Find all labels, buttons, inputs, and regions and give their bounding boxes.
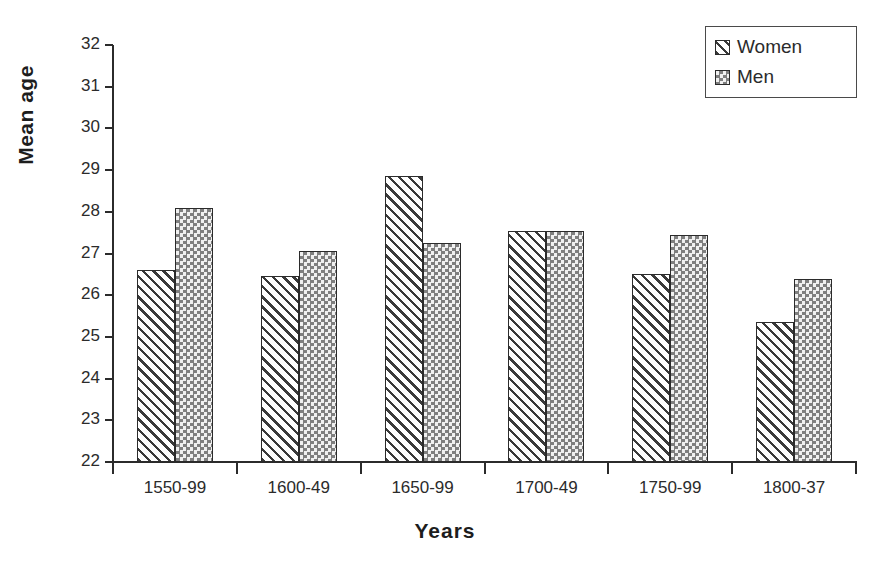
bar-men-1700-49 (546, 231, 584, 462)
bar-women-1600-49 (261, 276, 299, 462)
legend-label-men: Men (737, 66, 774, 88)
x-tick-label: 1700-49 (485, 478, 609, 498)
legend: Women Men (705, 26, 857, 98)
legend-swatch-women-icon (715, 40, 730, 55)
y-tick-label: 29 (48, 159, 100, 179)
bar-men-1550-99 (175, 208, 213, 462)
y-tick-label: 22 (48, 451, 100, 471)
y-tick-mark (105, 127, 113, 129)
y-tick-mark (105, 378, 113, 380)
bar-women-1550-99 (137, 270, 175, 462)
bar-chart: Mean age 2223242526272829303132 1550-991… (0, 0, 890, 576)
x-separator-tick (855, 463, 857, 474)
y-tick-mark (105, 211, 113, 213)
x-axis-title: Years (0, 519, 890, 543)
x-separator-tick (112, 463, 114, 474)
y-tick-label: 30 (48, 117, 100, 137)
bar-women-1750-99 (632, 274, 670, 462)
bar-men-1650-99 (423, 243, 461, 462)
y-tick-label: 32 (48, 34, 100, 54)
bar-men-1800-37 (794, 279, 832, 462)
y-tick-label: 24 (48, 368, 100, 388)
x-tick-label: 1600-49 (237, 478, 361, 498)
y-tick-mark (105, 336, 113, 338)
y-tick-mark (105, 44, 113, 46)
x-separator-tick (607, 463, 609, 474)
x-separator-tick (484, 463, 486, 474)
y-tick-mark (105, 169, 113, 171)
legend-label-women: Women (737, 36, 802, 58)
y-axis-title: Mean age (6, 20, 46, 210)
x-separator-tick (360, 463, 362, 474)
y-tick-mark (105, 253, 113, 255)
legend-item-women: Women (715, 34, 802, 60)
x-separator-tick (236, 463, 238, 474)
y-tick-label: 23 (48, 409, 100, 429)
bar-women-1650-99 (385, 176, 423, 462)
y-tick-label: 26 (48, 284, 100, 304)
bar-men-1750-99 (670, 235, 708, 462)
x-tick-label: 1750-99 (608, 478, 732, 498)
y-tick-label: 27 (48, 243, 100, 263)
y-tick-label: 25 (48, 326, 100, 346)
y-tick-label: 31 (48, 76, 100, 96)
legend-item-men: Men (715, 64, 774, 90)
bar-men-1600-49 (299, 251, 337, 462)
x-tick-label: 1550-99 (113, 478, 237, 498)
y-tick-label: 28 (48, 201, 100, 221)
y-tick-mark (105, 86, 113, 88)
bar-women-1800-37 (756, 322, 794, 462)
bar-women-1700-49 (508, 231, 546, 462)
y-tick-mark (105, 419, 113, 421)
y-tick-mark (105, 294, 113, 296)
legend-swatch-men-icon (715, 70, 730, 85)
x-tick-label: 1800-37 (732, 478, 856, 498)
x-tick-label: 1650-99 (361, 478, 485, 498)
x-separator-tick (731, 463, 733, 474)
